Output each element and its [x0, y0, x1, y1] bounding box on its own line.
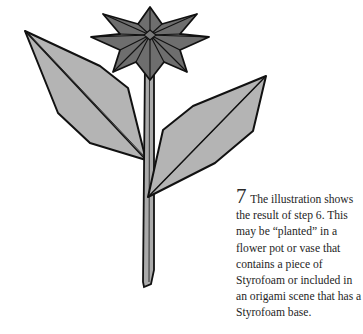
step-text: The illustration shows the result of ste… [236, 193, 361, 319]
step-number: 7 [236, 184, 247, 208]
right-leaf [148, 76, 266, 197]
step-caption: 7 The illustration shows the result of s… [236, 189, 363, 322]
flower-head [91, 7, 209, 80]
